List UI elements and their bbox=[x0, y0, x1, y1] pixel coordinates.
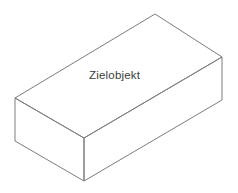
target-object-label: Zielobjekt bbox=[0, 68, 238, 82]
diagram-canvas: Zielobjekt bbox=[0, 0, 238, 193]
isometric-box-illustration bbox=[0, 0, 238, 193]
